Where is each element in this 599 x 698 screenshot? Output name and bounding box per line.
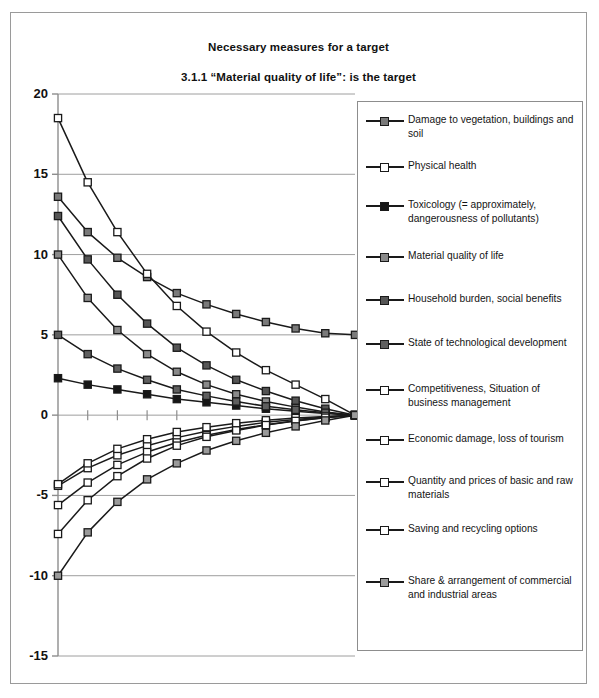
y-axis-label: -10 xyxy=(14,568,48,583)
legend-item-label: State of technological development xyxy=(404,336,567,350)
legend-marker-icon xyxy=(366,294,404,306)
y-axis-label: 5 xyxy=(14,327,48,342)
legend-item-label: Economic damage, loss of tourism xyxy=(404,432,564,446)
legend-item[interactable]: Physical health xyxy=(366,159,578,173)
y-axis-label: 20 xyxy=(14,86,48,101)
legend-item[interactable]: Household burden, social benefits xyxy=(366,292,578,306)
legend-item[interactable]: Damage to vegetation, buildings and soil xyxy=(366,113,578,140)
legend-item-label: Physical health xyxy=(404,159,477,173)
legend-marker-icon xyxy=(366,434,404,446)
legend-marker-icon xyxy=(366,161,404,173)
chart-subtitle: 3.1.1 “Material quality of life”: is the… xyxy=(11,71,586,83)
legend-item-label: Household burden, social benefits xyxy=(404,292,561,306)
legend-item-label: Quantity and prices of basic and raw mat… xyxy=(404,474,578,501)
legend-marker-icon xyxy=(366,338,404,350)
legend-marker-icon xyxy=(366,251,404,263)
y-axis-label: 15 xyxy=(14,166,48,181)
y-axis-label: -15 xyxy=(14,648,48,663)
legend-item[interactable]: Competitiveness, Situation of business m… xyxy=(366,382,578,409)
legend-marker-icon xyxy=(366,524,404,536)
legend-marker-icon xyxy=(366,200,404,212)
legend-item-label: Competitiveness, Situation of business m… xyxy=(404,382,578,409)
legend-item[interactable]: Quantity and prices of basic and raw mat… xyxy=(366,474,578,501)
legend-item[interactable]: State of technological development xyxy=(366,336,578,350)
legend-marker-icon xyxy=(366,476,404,488)
chart-title: Necessary measures for a target xyxy=(11,41,586,53)
legend-item-label: Toxicology (= approximately, dangerousne… xyxy=(404,198,578,225)
legend-item[interactable]: Toxicology (= approximately, dangerousne… xyxy=(366,198,578,225)
chart-legend: Damage to vegetation, buildings and soil… xyxy=(357,101,583,651)
legend-item[interactable]: Economic damage, loss of tourism xyxy=(366,432,578,446)
legend-marker-icon xyxy=(366,384,404,396)
legend-item-label: Damage to vegetation, buildings and soil xyxy=(404,113,578,140)
legend-item-label: Material quality of life xyxy=(404,249,504,263)
legend-item[interactable]: Material quality of life xyxy=(366,249,578,263)
y-axis-label: -5 xyxy=(14,487,48,502)
legend-marker-icon xyxy=(366,576,404,588)
y-axis-label: 0 xyxy=(14,407,48,422)
y-axis-label: 10 xyxy=(14,247,48,262)
legend-item-label: Saving and recycling options xyxy=(404,522,538,536)
legend-item[interactable]: Share & arrangement of commercial and in… xyxy=(366,574,578,601)
legend-item-label: Share & arrangement of commercial and in… xyxy=(404,574,578,601)
legend-marker-icon xyxy=(366,115,404,127)
legend-item[interactable]: Saving and recycling options xyxy=(366,522,578,536)
